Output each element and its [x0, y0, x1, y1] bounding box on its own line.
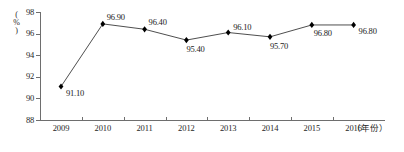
data-point-label: 95.70	[270, 42, 288, 51]
data-point-label: 96.10	[233, 23, 251, 32]
x-axis-unit-label: （年份）	[352, 123, 388, 133]
data-point-label: 96.80	[359, 27, 377, 36]
data-point-label: 91.10	[66, 89, 84, 98]
series-markers	[59, 21, 356, 90]
series-plot	[0, 0, 404, 152]
data-point-marker	[184, 37, 189, 43]
data-point-label: 96.80	[314, 29, 332, 38]
data-point-marker	[142, 26, 147, 32]
line-chart: (%) 889092949698 20092010201120122013201…	[0, 0, 404, 152]
data-point-label: 95.40	[186, 45, 204, 54]
data-point-label: 96.40	[149, 18, 167, 27]
data-point-marker	[268, 34, 273, 40]
series-line	[61, 24, 354, 87]
data-point-marker	[351, 22, 356, 28]
data-point-label: 96.90	[107, 13, 125, 22]
data-point-marker	[226, 29, 231, 35]
